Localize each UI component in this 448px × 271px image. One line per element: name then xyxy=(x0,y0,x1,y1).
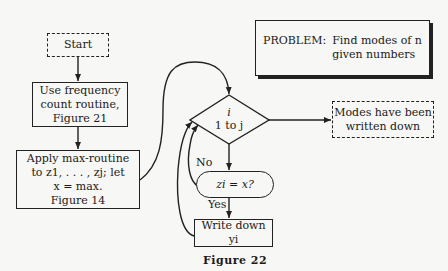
test-label: zi = x? xyxy=(216,178,254,192)
figure-caption: Figure 22 xyxy=(203,254,267,267)
frequency-line-3: Figure 21 xyxy=(53,112,108,126)
loop-label: i 1 to j xyxy=(199,106,259,132)
apply-line-1: Apply max-routine xyxy=(27,152,129,166)
write-down-node: Write down yi xyxy=(194,219,273,247)
start-label: Start xyxy=(64,38,92,52)
apply-line-2: to z1, . . . , zj; let xyxy=(31,166,124,180)
apply-line-4: Figure 14 xyxy=(51,194,106,208)
problem-box: PROBLEM: Find modes of n given numbers xyxy=(255,20,430,76)
problem-label: PROBLEM: xyxy=(263,34,326,48)
end-line-1: Modes have been xyxy=(334,106,432,120)
end-line-2: written down xyxy=(346,120,420,134)
loop-range: 1 to j xyxy=(199,119,259,132)
no-edge-label: No xyxy=(196,156,212,169)
problem-line-1: Find modes of n xyxy=(332,34,422,48)
apply-max-node: Apply max-routine to z1, . . . , zj; let… xyxy=(16,150,140,209)
loop-variable: i xyxy=(199,106,259,119)
test-node: zi = x? xyxy=(196,171,274,198)
frequency-line-2: count routine, xyxy=(41,98,120,112)
frequency-line-1: Use frequency xyxy=(40,84,121,98)
end-node: Modes have been written down xyxy=(332,101,434,138)
yes-edge-label: Yes xyxy=(208,198,226,211)
start-node: Start xyxy=(47,33,109,57)
frequency-count-node: Use frequency count routine, Figure 21 xyxy=(32,82,128,127)
apply-line-3: x = max. xyxy=(53,180,102,194)
problem-line-2: given numbers xyxy=(332,48,422,62)
write-label: Write down yi xyxy=(195,219,272,247)
